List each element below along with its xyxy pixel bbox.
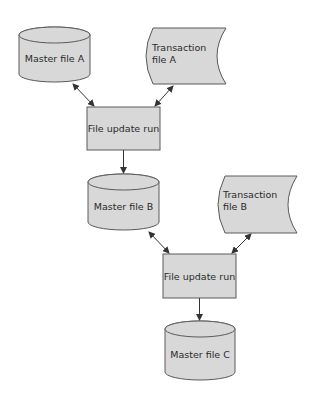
transaction-file-b-node: Transaction file B <box>218 176 297 233</box>
file-update-run-2-node: File update run <box>163 254 236 298</box>
transaction-file-a-label-line2: file A <box>152 54 176 65</box>
transaction-file-b-label-line2: file B <box>223 201 247 212</box>
edge-master-a-to-run-1 <box>73 84 94 106</box>
flowchart-canvas: Master file A Transaction file A File up… <box>0 0 311 398</box>
edge-master-b-to-run-2 <box>149 232 169 253</box>
master-file-b-node: Master file B <box>88 174 159 230</box>
file-update-run-1-label: File update run <box>88 123 159 134</box>
master-file-a-node: Master file A <box>19 27 90 82</box>
edge-trans-b-to-run-2 <box>232 234 251 253</box>
file-update-run-1-node: File update run <box>87 107 160 150</box>
master-file-b-label: Master file B <box>94 201 153 212</box>
master-file-c-label: Master file C <box>170 349 230 360</box>
master-file-a-label: Master file A <box>25 53 85 64</box>
edge-trans-a-to-run-1 <box>155 86 173 106</box>
master-file-c-node: Master file C <box>165 321 235 380</box>
file-update-run-2-label: File update run <box>164 271 235 282</box>
transaction-file-a-node: Transaction file A <box>146 28 226 84</box>
transaction-file-a-label-line1: Transaction <box>151 42 206 53</box>
transaction-file-b-label-line1: Transaction <box>222 189 277 200</box>
